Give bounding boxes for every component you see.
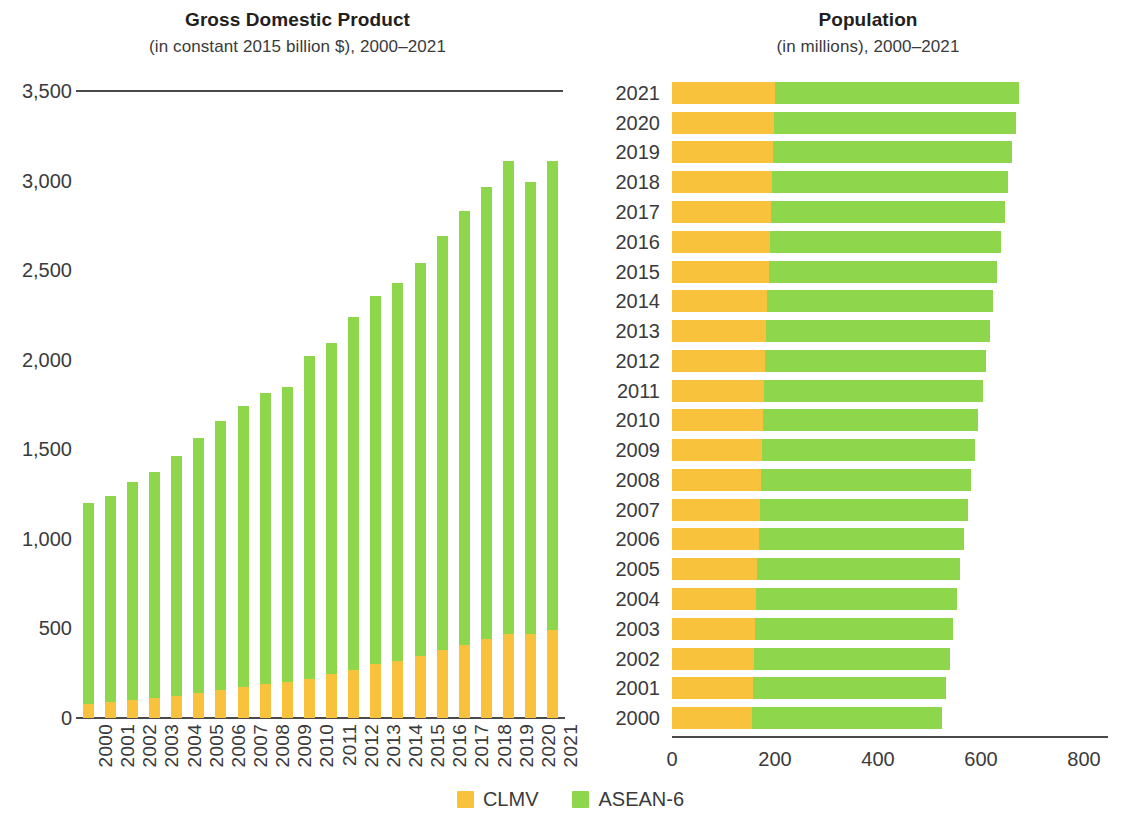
gdp-bar bbox=[171, 456, 182, 718]
gdp-y-tick-label: 1,500 bbox=[0, 438, 72, 461]
gdp-y-tick-label: 3,000 bbox=[0, 169, 72, 192]
gdp-bar bbox=[282, 387, 293, 718]
gdp-x-tick-label: 2003 bbox=[161, 724, 183, 767]
gdp-x-tick-label: 2007 bbox=[250, 724, 272, 767]
population-bar: 2014 bbox=[672, 290, 993, 312]
population-bar: 2016 bbox=[672, 231, 1001, 253]
population-year-label: 2011 bbox=[617, 380, 660, 402]
population-bar-segment-clmv bbox=[672, 558, 757, 580]
gdp-bar bbox=[193, 438, 204, 718]
population-x-tick-label: 600 bbox=[964, 748, 997, 771]
population-bar-segment-clmv bbox=[672, 409, 763, 431]
population-bar-segment-clmv bbox=[672, 618, 755, 640]
population-bar-segment-asean6 bbox=[757, 558, 960, 580]
gdp-x-tick-label: 2014 bbox=[405, 724, 427, 767]
population-x-tick-label: 0 bbox=[666, 748, 677, 771]
legend-label: CLMV bbox=[483, 788, 539, 811]
gdp-bar-segment-clmv bbox=[149, 698, 160, 718]
population-bar-segment-asean6 bbox=[766, 320, 990, 342]
gdp-bar bbox=[215, 421, 226, 718]
population-year-label: 2004 bbox=[616, 588, 661, 610]
gdp-plot-area bbox=[76, 91, 563, 718]
gdp-x-tick-label: 2001 bbox=[117, 724, 139, 767]
gdp-bar-segment-asean6 bbox=[105, 496, 116, 702]
chart-legend: CLMVASEAN-6 bbox=[0, 788, 1141, 811]
gdp-bar bbox=[459, 211, 470, 718]
population-bar-segment-clmv bbox=[672, 469, 761, 491]
population-bar-segment-clmv bbox=[672, 141, 773, 163]
population-bar: 2009 bbox=[672, 439, 975, 461]
legend-label: ASEAN-6 bbox=[598, 788, 684, 811]
gdp-bar-segment-clmv bbox=[326, 674, 337, 718]
population-bar-segment-clmv bbox=[672, 201, 771, 223]
population-bar-segment-clmv bbox=[672, 320, 766, 342]
legend-item: CLMV bbox=[457, 788, 539, 811]
gdp-chart-panel: Gross Domestic Product (in constant 2015… bbox=[0, 0, 595, 790]
population-year-label: 2003 bbox=[616, 618, 661, 640]
population-chart-title: Population bbox=[595, 0, 1141, 32]
population-bar-segment-clmv bbox=[672, 499, 760, 521]
population-year-label: 2001 bbox=[616, 677, 661, 699]
population-bar: 2006 bbox=[672, 528, 964, 550]
gdp-bar bbox=[437, 236, 448, 718]
population-bar: 2010 bbox=[672, 409, 978, 431]
gdp-y-tick-label: 2,500 bbox=[0, 259, 72, 282]
gdp-x-tick-label: 2016 bbox=[449, 724, 471, 767]
gdp-bar-segment-clmv bbox=[171, 696, 182, 718]
population-bar-segment-clmv bbox=[672, 261, 769, 283]
gdp-bar-segment-clmv bbox=[525, 634, 536, 718]
gdp-x-tick-label: 2010 bbox=[316, 724, 338, 767]
population-year-label: 2013 bbox=[616, 320, 661, 342]
population-bar-segment-asean6 bbox=[772, 171, 1008, 193]
population-year-label: 2015 bbox=[616, 261, 661, 283]
gdp-x-tick-label: 2015 bbox=[427, 724, 449, 767]
gdp-bar-segment-asean6 bbox=[415, 263, 426, 656]
population-year-label: 2009 bbox=[616, 439, 661, 461]
population-bar-segment-clmv bbox=[672, 82, 775, 104]
legend-item: ASEAN-6 bbox=[572, 788, 684, 811]
population-year-label: 2016 bbox=[616, 231, 661, 253]
gdp-bar-segment-asean6 bbox=[481, 187, 492, 639]
gdp-bar bbox=[149, 472, 160, 718]
population-bar-segment-asean6 bbox=[761, 469, 972, 491]
population-bar-segment-asean6 bbox=[774, 112, 1016, 134]
population-bar-segment-asean6 bbox=[762, 439, 975, 461]
gdp-x-tick-label: 2004 bbox=[184, 724, 206, 767]
population-bar-segment-clmv bbox=[672, 380, 764, 402]
population-bar-segment-clmv bbox=[672, 677, 753, 699]
gdp-bar-segment-clmv bbox=[481, 639, 492, 718]
gdp-bar-segment-clmv bbox=[348, 670, 359, 718]
population-bar-segment-clmv bbox=[672, 648, 754, 670]
gdp-x-tick-label: 2008 bbox=[272, 724, 294, 767]
population-bar-segment-asean6 bbox=[764, 380, 982, 402]
gdp-y-tick-label: 2,000 bbox=[0, 348, 72, 371]
population-plot-area: 2021202020192018201720162015201420132012… bbox=[672, 78, 1084, 733]
population-bar-segment-asean6 bbox=[767, 290, 993, 312]
gdp-bar-segment-clmv bbox=[459, 645, 470, 718]
population-bar-segment-clmv bbox=[672, 290, 767, 312]
population-bar-segment-asean6 bbox=[760, 499, 968, 521]
population-bar-segment-clmv bbox=[672, 171, 772, 193]
population-year-label: 2002 bbox=[616, 648, 661, 670]
gdp-bar bbox=[238, 406, 249, 718]
gdp-bar bbox=[127, 482, 138, 718]
gdp-bar-segment-clmv bbox=[215, 690, 226, 718]
gdp-bar-segment-asean6 bbox=[127, 482, 138, 701]
population-year-label: 2018 bbox=[616, 171, 661, 193]
gdp-x-tick-label: 2020 bbox=[538, 724, 560, 767]
gdp-bar bbox=[304, 356, 315, 718]
gdp-bar-segment-asean6 bbox=[348, 317, 359, 670]
gdp-x-tick-label: 2013 bbox=[383, 724, 405, 767]
gdp-y-tick-label: 1,000 bbox=[0, 527, 72, 550]
gdp-x-tick-label: 2011 bbox=[339, 724, 361, 766]
gdp-bar-segment-clmv bbox=[503, 634, 514, 718]
population-x-tick-label: 200 bbox=[758, 748, 791, 771]
gdp-bar-segment-clmv bbox=[83, 704, 94, 718]
population-bar: 2004 bbox=[672, 588, 957, 610]
gdp-x-tick-label: 2000 bbox=[95, 724, 117, 767]
legend-swatch-icon bbox=[457, 791, 474, 808]
population-year-label: 2017 bbox=[616, 201, 661, 223]
population-bar-segment-asean6 bbox=[763, 409, 979, 431]
population-bar: 2017 bbox=[672, 201, 1005, 223]
population-bar-segment-clmv bbox=[672, 707, 752, 729]
